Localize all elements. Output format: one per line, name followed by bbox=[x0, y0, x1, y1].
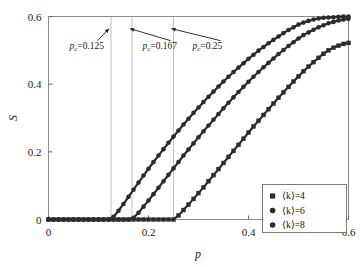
data-point bbox=[161, 147, 166, 152]
data-point bbox=[226, 74, 231, 79]
data-point bbox=[246, 56, 251, 61]
legend-marker-0 bbox=[270, 193, 275, 198]
data-point bbox=[286, 44, 291, 49]
data-point bbox=[146, 166, 151, 171]
data-point bbox=[136, 180, 141, 185]
data-point bbox=[196, 105, 201, 110]
annotation-pc-125: pc=0.125 bbox=[69, 41, 105, 53]
chart-canvas: 00.20.40.600.20.40.6 pc=0.125pc=0.167pc=… bbox=[0, 0, 361, 267]
annotation-pc-25: pc=0.25 bbox=[192, 41, 223, 53]
data-point bbox=[51, 217, 56, 222]
data-point bbox=[76, 217, 81, 222]
data-point bbox=[301, 20, 306, 25]
data-point bbox=[336, 15, 341, 20]
data-point bbox=[171, 134, 176, 139]
data-point bbox=[136, 210, 141, 215]
data-point bbox=[206, 179, 210, 183]
data-point bbox=[256, 70, 261, 75]
data-point bbox=[246, 130, 250, 134]
data-point bbox=[341, 42, 345, 46]
data-point bbox=[271, 56, 276, 61]
data-point bbox=[211, 117, 216, 122]
data-point bbox=[296, 22, 301, 27]
data-point bbox=[286, 85, 290, 89]
data-point bbox=[166, 173, 171, 178]
data-point bbox=[191, 111, 196, 116]
data-point bbox=[176, 128, 181, 133]
data-point bbox=[211, 173, 215, 177]
data-point bbox=[186, 202, 190, 206]
data-point bbox=[231, 70, 236, 75]
data-point bbox=[121, 217, 126, 222]
data-point bbox=[306, 30, 311, 35]
data-point bbox=[276, 96, 280, 100]
data-point bbox=[301, 33, 306, 38]
legend-label-2: ⟨k⟩=8 bbox=[282, 220, 305, 230]
data-point bbox=[281, 48, 286, 53]
data-point bbox=[306, 64, 310, 68]
data-point bbox=[246, 80, 251, 85]
data-point bbox=[141, 204, 146, 209]
data-point bbox=[251, 74, 256, 79]
data-point bbox=[171, 166, 176, 171]
data-point bbox=[346, 14, 351, 19]
data-point bbox=[181, 122, 186, 127]
data-point bbox=[61, 217, 66, 222]
data-point bbox=[156, 153, 161, 158]
annotation-arrow-pc-25 bbox=[172, 29, 221, 41]
data-point bbox=[261, 45, 266, 50]
data-point bbox=[136, 217, 140, 221]
data-point bbox=[321, 52, 325, 56]
data-point bbox=[56, 217, 61, 222]
data-point bbox=[256, 119, 260, 123]
x-axis-title: p bbox=[194, 247, 201, 261]
data-point bbox=[311, 27, 316, 32]
data-point bbox=[196, 191, 200, 195]
data-point bbox=[276, 52, 281, 57]
data-point bbox=[306, 19, 311, 24]
data-point bbox=[176, 160, 181, 165]
data-point bbox=[166, 217, 170, 221]
data-point bbox=[316, 16, 321, 21]
threshold-annotations: pc=0.125pc=0.167pc=0.25 bbox=[69, 28, 223, 53]
data-point bbox=[331, 15, 336, 20]
legend-marker-2 bbox=[270, 222, 276, 228]
data-point bbox=[201, 129, 206, 134]
data-point bbox=[331, 45, 335, 49]
data-point bbox=[206, 94, 211, 99]
data-point bbox=[166, 140, 171, 145]
data-point bbox=[151, 217, 155, 221]
data-point bbox=[281, 90, 285, 94]
data-point bbox=[326, 48, 330, 52]
data-point bbox=[231, 95, 236, 100]
data-point bbox=[271, 38, 276, 43]
legend-marker-1 bbox=[270, 208, 276, 214]
data-point bbox=[46, 217, 51, 222]
legend-label-0: ⟨k⟩=4 bbox=[282, 191, 305, 201]
data-point bbox=[256, 48, 261, 53]
data-point bbox=[101, 217, 106, 222]
data-point bbox=[316, 25, 321, 30]
data-point bbox=[251, 124, 255, 128]
data-point bbox=[271, 101, 275, 105]
data-point bbox=[176, 213, 180, 217]
data-point bbox=[321, 23, 326, 28]
x-tick-label: 0.2 bbox=[142, 226, 156, 238]
data-point bbox=[296, 74, 300, 78]
y-axis-title: S bbox=[6, 115, 20, 121]
data-point bbox=[126, 195, 131, 200]
data-point bbox=[226, 100, 231, 105]
data-point bbox=[161, 179, 166, 184]
chart-legend: ⟨k⟩=4⟨k⟩=6⟨k⟩=8 bbox=[263, 185, 347, 233]
data-point bbox=[146, 198, 151, 203]
data-point bbox=[216, 112, 221, 117]
data-point bbox=[81, 217, 86, 222]
legend-label-1: ⟨k⟩=6 bbox=[282, 206, 305, 216]
data-point bbox=[171, 217, 175, 221]
data-point bbox=[326, 21, 331, 26]
data-point bbox=[221, 79, 226, 84]
data-point bbox=[121, 202, 126, 207]
annotation-arrow-pc-167 bbox=[130, 29, 171, 41]
y-tick-label: 0.2 bbox=[28, 146, 42, 158]
data-point bbox=[71, 217, 76, 222]
